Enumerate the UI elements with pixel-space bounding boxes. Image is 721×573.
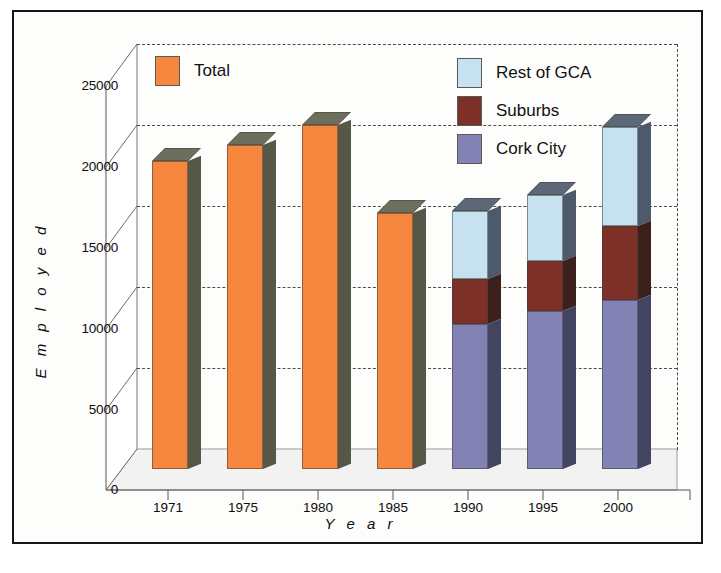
chart-plot-area: 25000 20000 15000 10000 5000 0 E m p l o… xyxy=(0,0,721,573)
x-tick-1990: 1990 xyxy=(433,500,503,515)
bar-face xyxy=(452,324,488,469)
bar-2000[interactable] xyxy=(602,127,638,469)
bar-side xyxy=(488,279,501,324)
bar-face xyxy=(602,127,638,226)
bar-segment-cork-city[interactable] xyxy=(527,311,563,469)
bar-side xyxy=(263,145,276,469)
bar-segment-rest-of-gca[interactable] xyxy=(602,127,638,226)
bar-1995[interactable] xyxy=(527,195,563,469)
bar-segment-suburbs[interactable] xyxy=(602,226,638,300)
y-tick-25000: 25000 xyxy=(46,78,118,93)
bar-side xyxy=(488,211,501,279)
legend-swatch-cork-city xyxy=(457,134,482,164)
bar-segment-total[interactable] xyxy=(377,213,413,469)
bar-1980[interactable] xyxy=(302,125,338,469)
legend-item-suburbs[interactable]: Suburbs xyxy=(457,96,559,126)
legend-swatch-rest-of-gca xyxy=(457,58,482,88)
y-axis-ticks: 25000 20000 15000 10000 5000 0 xyxy=(0,0,118,573)
bar-segment-cork-city[interactable] xyxy=(602,300,638,469)
backwall-right-edge xyxy=(677,44,678,450)
bar-segment-rest-of-gca[interactable] xyxy=(452,211,488,279)
bar-side xyxy=(638,300,651,469)
bar-top-cap xyxy=(527,182,563,195)
bar-top-cap xyxy=(602,114,638,127)
bar-1975[interactable] xyxy=(227,145,263,469)
bar-segment-total[interactable] xyxy=(152,161,188,469)
bar-face xyxy=(452,211,488,279)
bar-side xyxy=(563,261,576,311)
gridline-25000 xyxy=(137,44,677,45)
x-tick-2000: 2000 xyxy=(583,500,653,515)
bar-side xyxy=(188,161,201,469)
bar-face xyxy=(377,213,413,469)
y-tick-20000: 20000 xyxy=(46,159,118,174)
legend-label-suburbs: Suburbs xyxy=(496,101,559,121)
bar-top-cap xyxy=(452,198,488,211)
legend-item-total[interactable]: Total xyxy=(155,56,230,86)
y-tick-0: 0 xyxy=(46,482,118,497)
legend-label-rest-of-gca: Rest of GCA xyxy=(496,63,591,83)
y-tick-5000: 5000 xyxy=(46,402,118,417)
bar-side xyxy=(563,195,576,261)
bar-1971[interactable] xyxy=(152,161,188,469)
legend-swatch-suburbs xyxy=(457,96,482,126)
bar-face xyxy=(227,145,263,469)
legend-label-total: Total xyxy=(194,61,230,81)
legend-item-rest-of-gca[interactable]: Rest of GCA xyxy=(457,58,591,88)
bar-1985[interactable] xyxy=(377,213,413,469)
y-tick-10000: 10000 xyxy=(46,321,118,336)
bar-side xyxy=(338,125,351,469)
bar-face xyxy=(527,261,563,311)
bar-top-cap xyxy=(152,148,188,161)
bar-top-cap xyxy=(227,132,263,145)
y-tick-15000: 15000 xyxy=(46,240,118,255)
bar-face xyxy=(527,195,563,261)
bar-side xyxy=(638,226,651,300)
bar-top-cap xyxy=(377,200,413,213)
bar-face xyxy=(602,300,638,469)
legend-item-cork-city[interactable]: Cork City xyxy=(457,134,566,164)
bar-face xyxy=(302,125,338,469)
bar-segment-cork-city[interactable] xyxy=(452,324,488,469)
bar-face xyxy=(602,226,638,300)
bar-side xyxy=(413,213,426,469)
x-tick-1980: 1980 xyxy=(283,500,353,515)
bar-side xyxy=(638,127,651,226)
bar-face xyxy=(527,311,563,469)
x-tick-1985: 1985 xyxy=(358,500,428,515)
x-tick-1995: 1995 xyxy=(508,500,578,515)
bar-top-cap xyxy=(302,112,338,125)
gridline-20000 xyxy=(137,125,677,126)
x-axis-title: Y e a r xyxy=(0,515,721,532)
bar-segment-rest-of-gca[interactable] xyxy=(527,195,563,261)
bar-side xyxy=(488,324,501,469)
y-axis-title: E m p l o y e d xyxy=(32,239,49,379)
x-tick-1975: 1975 xyxy=(208,500,278,515)
bar-side xyxy=(563,311,576,469)
bar-face xyxy=(152,161,188,469)
bar-segment-total[interactable] xyxy=(227,145,263,469)
chart-screenshot: 25000 20000 15000 10000 5000 0 E m p l o… xyxy=(0,0,721,573)
legend-label-cork-city: Cork City xyxy=(496,139,566,159)
bar-segment-total[interactable] xyxy=(302,125,338,469)
bar-face xyxy=(452,279,488,324)
bar-1990[interactable] xyxy=(452,211,488,469)
bar-segment-suburbs[interactable] xyxy=(527,261,563,311)
legend-swatch-total xyxy=(155,56,180,86)
x-tick-1971: 1971 xyxy=(133,500,203,515)
bar-segment-suburbs[interactable] xyxy=(452,279,488,324)
